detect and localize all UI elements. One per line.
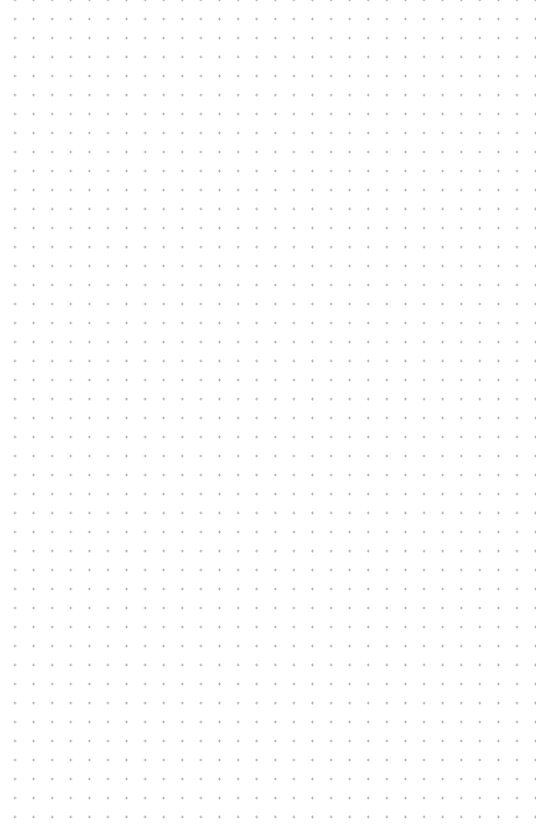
dot-grid-canvas[interactable] <box>0 0 536 834</box>
